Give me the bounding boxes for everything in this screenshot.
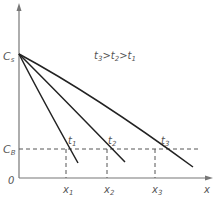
time-relation-label: t3>t2>t1 <box>94 50 136 63</box>
curve-t3-label: t3 <box>161 135 169 148</box>
x3-label: x3 <box>151 184 162 197</box>
origin-label: 0 <box>8 175 14 186</box>
cb-label: CB <box>3 143 16 157</box>
x1-label: x1 <box>62 184 73 197</box>
curve-t3 <box>19 54 193 167</box>
y-axis-arrow-icon <box>17 3 22 11</box>
x-axis-label: x <box>203 184 210 195</box>
x2-label: x2 <box>103 184 115 197</box>
concentration-diagram: Cs CB 0 t3>t2>t1 t1 t2 t3 x1 x2 x3 x <box>0 0 215 203</box>
x-axis-arrow-icon <box>205 176 213 181</box>
cs-label: Cs <box>3 50 15 64</box>
